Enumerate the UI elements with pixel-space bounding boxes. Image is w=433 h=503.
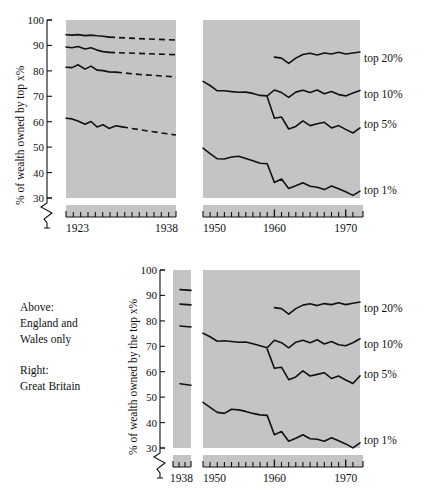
b-y-tick-60: 60: [146, 366, 158, 378]
top-left-plot-background: [66, 20, 176, 198]
legend-top1: top 1%: [364, 184, 397, 197]
bottom-left-strip-plot: [173, 270, 191, 448]
y-tick-50: 50: [33, 141, 45, 153]
bottom-strip-series-top10: [180, 304, 191, 305]
legend-top20: top 20%: [364, 52, 403, 65]
wealth-distribution-figure: 100 90 80 70 60 50 40 30 % of wealth own…: [0, 0, 433, 503]
bottom-right-x-label-1950: 1950: [203, 472, 226, 484]
bottom-right-x-axis: 1950 1960 1970: [203, 455, 363, 484]
bottom-right-plot-background: [203, 270, 360, 448]
top-right-x-label-1950: 1950: [203, 222, 226, 234]
bottom-y-ticks: [160, 270, 165, 448]
bottom-left-strip-background: [173, 270, 191, 448]
note-right-line1: Right:: [20, 364, 49, 377]
y-tick-100: 100: [28, 14, 45, 26]
y-tick-40: 40: [33, 167, 45, 179]
b-y-tick-30: 30: [146, 442, 158, 454]
top-right-x-label-1970: 1970: [334, 222, 357, 234]
bottom-y-tick-labels: 100 90 80 70 60 50 40 30: [141, 264, 158, 454]
top-left-y-tick-labels: 100 90 80 70 60 50 40 30: [28, 14, 45, 204]
b-y-tick-50: 50: [146, 391, 158, 403]
top-left-x-axis-strip: [66, 205, 176, 217]
note-above-line1: Above:: [20, 301, 54, 313]
b-y-tick-80: 80: [146, 315, 158, 327]
note-above-line3: Wales only: [20, 333, 71, 346]
y-tick-90: 90: [33, 39, 45, 51]
note-above-line2: England and: [20, 317, 78, 330]
b-legend-top5: top 5%: [364, 368, 397, 381]
bottom-right-legend: top 20% top 10% top 5% top 1%: [364, 302, 403, 447]
top-right-legend: top 20% top 10% top 5% top 1%: [364, 52, 403, 197]
top-right-plot-background: [203, 20, 360, 198]
top-left-plot: [66, 20, 176, 198]
bottom-left-x-axis-strip: [173, 455, 191, 467]
top-right-x-label-1960: 1960: [263, 222, 286, 234]
bottom-right-x-label-1960: 1960: [263, 472, 286, 484]
legend-top10: top 10%: [364, 88, 403, 101]
b-y-tick-100: 100: [141, 264, 158, 276]
bottom-strip-series-top20: [180, 290, 191, 291]
legend-top5: top 5%: [364, 118, 397, 131]
y-tick-80: 80: [33, 65, 45, 77]
b-y-tick-90: 90: [146, 289, 158, 301]
figure-canvas: 100 90 80 70 60 50 40 30 % of wealth own…: [0, 0, 433, 503]
y-tick-70: 70: [33, 90, 45, 102]
top-right-x-axis: 1950 1960 1970: [203, 205, 363, 234]
y-tick-60: 60: [33, 116, 45, 128]
b-legend-top10: top 10%: [364, 338, 403, 351]
top-left-y-ticks: [47, 20, 52, 198]
y-tick-30: 30: [33, 192, 45, 204]
top-left-x-axis: 1923 1938: [66, 205, 178, 234]
b-y-tick-70: 70: [146, 340, 158, 352]
b-y-tick-40: 40: [146, 417, 158, 429]
note-right-line2: Great Britain: [20, 380, 81, 392]
b-legend-top20: top 20%: [364, 302, 403, 315]
bottom-right-plot: [203, 270, 360, 448]
top-left-x-label-end: 1938: [155, 222, 178, 234]
bottom-left-x-axis: 1938: [170, 455, 193, 484]
top-y-axis-title: % of wealth owned by top x%: [14, 65, 27, 205]
top-right-plot: [203, 20, 360, 198]
top-left-x-label-start: 1923: [66, 222, 89, 234]
bottom-left-x-label-1938: 1938: [170, 472, 193, 484]
bottom-y-axis-title: % of wealth owned by the top x%: [127, 298, 140, 455]
bottom-right-x-label-1970: 1970: [334, 472, 357, 484]
bottom-strip-series-top5: [180, 326, 191, 327]
b-legend-top1: top 1%: [364, 434, 397, 447]
figure-notes: Above: England and Wales only Right: Gre…: [20, 301, 81, 392]
